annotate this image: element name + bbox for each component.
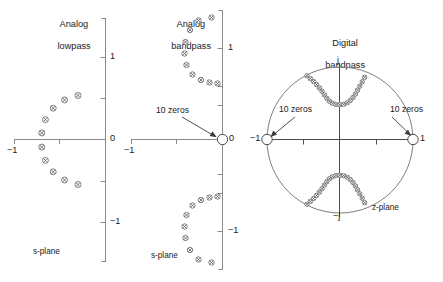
digital-zeros-left-arrow xyxy=(271,117,295,137)
digital-zeros-right-label: 10 zeros xyxy=(390,104,423,114)
digital-zeros-right xyxy=(408,134,418,144)
pole-marker xyxy=(362,201,366,205)
digital-poles-lower xyxy=(305,173,367,206)
digital-zeros-right-arrow xyxy=(392,117,411,136)
pole-marker xyxy=(360,196,364,200)
digital-label-x-neg1: −1 xyxy=(250,133,260,144)
pole-marker xyxy=(362,75,366,79)
pole-marker xyxy=(358,192,362,196)
digital-label-j-pos: j xyxy=(337,55,339,66)
digital-label-x-pos1: 1 xyxy=(420,133,425,144)
digital-poles-upper xyxy=(305,74,367,107)
pole-marker xyxy=(358,84,362,88)
digital-zeros-left-label: 10 zeros xyxy=(279,104,312,114)
pole-marker xyxy=(360,80,364,84)
digital-plane-label: z-plane xyxy=(372,203,399,213)
pole-zero-figure: Analog lowpass xyxy=(0,0,443,282)
digital-label-j-neg: −j xyxy=(333,211,340,222)
panel-digital-bandpass-graphics xyxy=(0,0,443,282)
digital-zeros-left xyxy=(262,134,272,144)
